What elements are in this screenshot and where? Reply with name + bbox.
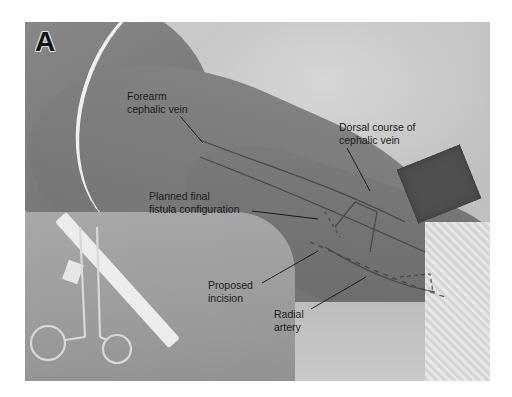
label-line: Dorsal course of [339,121,415,133]
label-proposed-incision: Proposed incision [208,279,253,304]
label-dorsal-course: Dorsal course of cephalic vein [339,121,415,146]
leader-lines [0,0,512,397]
label-line: cephalic vein [339,134,400,146]
label-line: Planned final [149,190,210,202]
label-planned-final-fistula: Planned final fistula configuration [149,190,239,215]
label-line: Proposed [208,279,253,291]
label-radial-artery: Radial artery [274,308,304,333]
label-line: Radial [274,308,304,320]
label-forearm-cephalic-vein: Forearm cephalic vein [127,90,188,115]
label-line: cephalic vein [127,103,188,115]
label-line: Forearm [127,90,167,102]
label-line: incision [208,292,243,304]
label-line: artery [274,321,301,333]
panel-letter: A [35,28,55,56]
label-line: fistula configuration [149,203,239,215]
